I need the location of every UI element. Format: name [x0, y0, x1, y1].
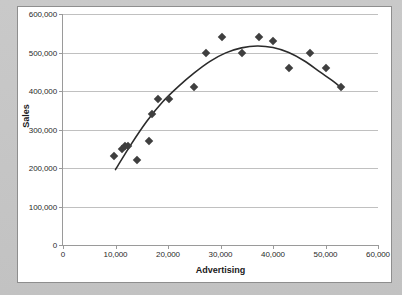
y-tick-label: 600,000 — [29, 10, 57, 19]
x-tick-mark — [168, 245, 169, 249]
y-tick-label: 0 — [53, 241, 57, 250]
x-tick-mark — [378, 245, 379, 249]
x-tick-label: 0 — [61, 250, 65, 259]
x-tick-mark — [116, 245, 117, 249]
chart-frame: 0100,000200,000300,000400,000500,000600,… — [17, 6, 392, 283]
x-tick-mark — [63, 245, 64, 249]
x-tick-mark — [326, 245, 327, 249]
y-axis-title: Sales — [21, 96, 31, 136]
y-tick-label: 500,000 — [29, 48, 57, 57]
x-tick-mark — [221, 245, 222, 249]
x-tick-label: 50,000 — [314, 250, 338, 259]
x-tick-mark — [273, 245, 274, 249]
x-tick-label: 40,000 — [261, 250, 285, 259]
y-tick-label: 300,000 — [29, 125, 57, 134]
x-axis-title: Advertising — [63, 265, 378, 275]
x-tick-label: 30,000 — [209, 250, 233, 259]
trendline — [63, 14, 378, 245]
y-tick-label: 200,000 — [29, 164, 57, 173]
y-tick-label: 400,000 — [29, 87, 57, 96]
x-tick-label: 60,000 — [366, 250, 390, 259]
y-tick-label: 100,000 — [29, 202, 57, 211]
x-tick-label: 10,000 — [104, 250, 128, 259]
x-tick-label: 20,000 — [156, 250, 180, 259]
trendline-path — [116, 46, 343, 170]
page-background: 0100,000200,000300,000400,000500,000600,… — [0, 0, 402, 295]
plot-area: 0100,000200,000300,000400,000500,000600,… — [63, 14, 378, 245]
